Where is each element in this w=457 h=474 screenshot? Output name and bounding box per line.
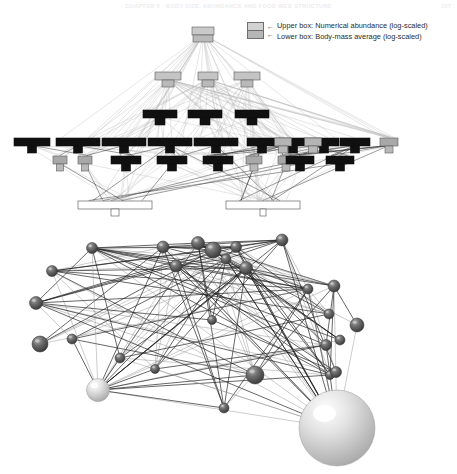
- network-sphere: [219, 403, 229, 413]
- abundance-box: [326, 156, 354, 164]
- network-sphere: [276, 234, 288, 246]
- food-web-node: [78, 201, 152, 216]
- network-sphere: [87, 379, 110, 402]
- abundance-box: [380, 138, 398, 146]
- food-web-node: [78, 156, 92, 171]
- network-sphere: [87, 243, 98, 254]
- food-web-node: [111, 156, 141, 171]
- body-mass-box: [241, 80, 253, 87]
- sphere-highlight: [305, 286, 308, 288]
- food-web-node: [53, 156, 67, 171]
- sphere-network-links: [36, 240, 357, 428]
- sphere-food-web-svg: [0, 223, 457, 474]
- abundance-box: [194, 138, 238, 146]
- sphere-highlight: [221, 405, 224, 407]
- network-sphere: [47, 266, 58, 277]
- body-mass-box: [336, 164, 345, 171]
- network-link: [224, 289, 308, 408]
- body-mass-box: [168, 164, 177, 171]
- abundance-box: [148, 138, 192, 146]
- body-mass-box: [296, 164, 305, 171]
- body-mass-box: [279, 146, 288, 153]
- body-mass-box: [351, 146, 360, 153]
- body-mass-box: [309, 146, 318, 153]
- abundance-box: [247, 138, 277, 146]
- sphere-highlight: [327, 372, 330, 374]
- food-web-node: [380, 138, 398, 153]
- abundance-box: [198, 72, 218, 80]
- network-link: [52, 271, 98, 390]
- food-web-node: [157, 156, 187, 171]
- body-mass-box: [28, 146, 37, 153]
- network-sphere: [350, 318, 364, 332]
- figure-page: CHAPTER 5 · BODY SIZE, ABUNDANCE AND FOO…: [0, 0, 457, 474]
- network-link: [236, 247, 326, 345]
- abundance-box: [188, 110, 222, 118]
- sphere-highlight: [69, 336, 72, 338]
- body-mass-box: [214, 164, 223, 171]
- network-sphere: [324, 309, 334, 319]
- network-sphere: [331, 367, 342, 378]
- body-mass-box: [111, 209, 119, 216]
- sphere-food-web-panel: [0, 223, 457, 474]
- network-sphere: [157, 241, 169, 253]
- network-sphere: [30, 297, 43, 310]
- network-sphere: [240, 262, 253, 275]
- body-mass-box: [385, 146, 393, 153]
- body-mass-box: [212, 146, 221, 153]
- food-web-node: [194, 138, 238, 153]
- food-web-node: [226, 201, 300, 216]
- network-sphere: [170, 260, 182, 272]
- network-sphere: [221, 254, 231, 264]
- abundance-box: [155, 72, 181, 80]
- abundance-box: [246, 156, 262, 164]
- sphere-highlight: [209, 317, 212, 319]
- running-head: CHAPTER 5 · BODY SIZE, ABUNDANCE AND FOO…: [0, 0, 457, 11]
- body-mass-box: [82, 164, 89, 171]
- abundance-box: [275, 138, 292, 146]
- box-legend: ← ← Upper box: Numerical abundance (log-…: [247, 21, 455, 45]
- body-mass-box: [122, 164, 131, 171]
- sphere-highlight: [323, 342, 326, 344]
- body-mass-box: [260, 209, 266, 216]
- page-folio: 107: [441, 0, 451, 11]
- body-mass-box: [258, 146, 267, 153]
- network-sphere: [67, 334, 77, 344]
- body-mass-box: [162, 80, 174, 87]
- legend-labels: Upper box: Numerical abundance (log-scal…: [277, 21, 428, 42]
- network-sphere: [335, 335, 345, 345]
- abundance-box: [143, 110, 177, 118]
- sphere-highlight: [194, 239, 198, 242]
- sphere-highlight: [223, 256, 226, 258]
- abundance-box: [226, 201, 300, 209]
- food-web-node: [148, 138, 192, 153]
- sphere-highlight: [333, 369, 336, 371]
- legend-upper-box: [248, 23, 263, 31]
- network-sphere: [151, 365, 160, 374]
- body-mass-box: [320, 146, 329, 153]
- network-sphere: [208, 316, 217, 325]
- body-mass-box: [166, 146, 175, 153]
- food-web-node: [203, 156, 233, 171]
- sphere-highlight: [233, 244, 236, 246]
- abundance-box: [192, 27, 214, 35]
- sphere-highlight: [32, 299, 36, 302]
- network-link: [52, 271, 155, 369]
- sphere-highlight: [326, 311, 329, 313]
- network-link: [40, 250, 213, 344]
- sphere-highlight: [159, 243, 163, 246]
- abundance-box: [235, 110, 269, 118]
- sphere-highlight: [89, 245, 92, 247]
- abundance-box: [157, 156, 187, 164]
- abundance-box: [53, 156, 67, 164]
- abundance-box: [234, 72, 260, 80]
- abundance-box: [102, 138, 146, 146]
- body-mass-box: [155, 118, 165, 125]
- network-sphere: [299, 390, 375, 466]
- left-arrow-icon-upper: ←: [267, 23, 274, 30]
- network-sphere: [246, 366, 264, 384]
- body-mass-box: [250, 164, 258, 171]
- sphere-highlight: [278, 236, 282, 239]
- network-sphere: [205, 242, 221, 258]
- abundance-box: [14, 138, 50, 146]
